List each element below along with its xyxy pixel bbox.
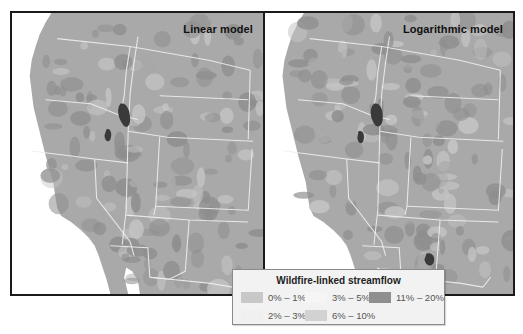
watershed-patch — [196, 71, 217, 79]
watershed-patch — [422, 133, 432, 147]
watershed-patch — [92, 30, 99, 38]
watershed-patch — [87, 99, 108, 115]
watershed-patch — [341, 86, 360, 104]
watershed-patch — [472, 154, 478, 165]
watershed-patch — [329, 185, 336, 198]
watershed-patch — [235, 243, 248, 249]
watershed-patch — [243, 120, 261, 130]
watershed-patch — [366, 59, 376, 80]
watershed-patch — [44, 123, 63, 129]
watershed-patch — [468, 247, 477, 262]
high-streamflow-hotspot — [357, 131, 364, 143]
legend-label: 0% – 1% — [268, 292, 306, 303]
watershed-patch — [220, 108, 234, 124]
watershed-patch — [225, 155, 231, 163]
watershed-patch — [126, 146, 143, 153]
map-linear — [12, 13, 263, 294]
watershed-patch — [309, 170, 327, 180]
watershed-patch — [413, 166, 422, 182]
watershed-patch — [83, 126, 90, 139]
legend-item-6-10: 6% – 10% — [305, 310, 375, 321]
watershed-patch — [127, 244, 149, 256]
watershed-patch — [114, 54, 133, 70]
watershed-patch — [144, 259, 151, 270]
watershed-patch — [309, 200, 330, 213]
watershed-patch — [70, 111, 91, 126]
watershed-patch — [444, 194, 456, 214]
watershed-patch — [222, 126, 233, 133]
watershed-patch — [456, 226, 464, 236]
legend-item-0-1: 0% – 1% — [241, 292, 306, 303]
watershed-patch — [433, 135, 445, 146]
watershed-patch — [367, 226, 383, 232]
watershed-patch — [311, 70, 328, 89]
legend-item-11-20: 11% – 20% — [369, 292, 444, 303]
watershed-patch — [134, 56, 157, 77]
map-logarithmic — [265, 13, 513, 294]
watershed-patch — [111, 212, 119, 230]
legend-swatch — [241, 310, 263, 321]
legend-item-2-3: 2% – 3% — [241, 310, 306, 321]
watershed-patch — [228, 206, 235, 215]
watershed-patch — [238, 165, 249, 175]
watershed-patch — [448, 139, 459, 154]
watershed-patch — [503, 266, 510, 282]
watershed-patch — [149, 219, 170, 237]
watershed-patch — [207, 15, 219, 22]
watershed-patch — [40, 168, 60, 183]
watershed-patch — [376, 179, 399, 196]
watershed-patch — [474, 38, 487, 60]
watershed-patch — [172, 241, 181, 248]
watershed-patch — [311, 92, 327, 106]
watershed-patch — [113, 24, 127, 36]
watershed-patch — [124, 257, 141, 263]
legend-label: 2% – 3% — [268, 310, 306, 321]
legend-swatch — [369, 292, 391, 303]
watershed-patch — [75, 196, 91, 207]
watershed-patch — [196, 131, 205, 145]
legend-item-3-5: 3% – 5% — [305, 292, 370, 303]
watershed-patch — [401, 55, 421, 63]
watershed-patch — [314, 122, 335, 143]
legend-swatch — [305, 292, 327, 303]
watershed-patch — [129, 179, 143, 187]
watershed-patch — [420, 64, 442, 78]
watershed-patch — [370, 13, 382, 32]
legend-label: 3% – 5% — [332, 292, 370, 303]
watershed-patch — [343, 230, 353, 240]
watershed-patch — [486, 183, 506, 199]
map-panel-logarithmic: Logarithmic model — [263, 11, 515, 296]
map-panel-linear: Linear model — [10, 11, 265, 296]
watershed-patch — [432, 233, 441, 241]
watershed-patch — [238, 92, 256, 112]
watershed-patch — [77, 64, 89, 73]
watershed-patch — [217, 195, 233, 204]
watershed-patch — [308, 58, 322, 69]
watershed-patch — [381, 83, 400, 90]
watershed-patch — [154, 31, 171, 47]
watershed-patch — [199, 197, 220, 217]
watershed-patch — [114, 141, 125, 159]
watershed-patch — [97, 24, 114, 32]
watershed-patch — [467, 142, 476, 149]
watershed-patch — [171, 157, 194, 175]
watershed-patch — [101, 175, 116, 192]
watershed-patch — [384, 226, 404, 244]
watershed-patch — [476, 246, 489, 254]
watershed-patch — [69, 137, 80, 158]
watershed-patch — [129, 219, 144, 239]
watershed-patch — [484, 83, 493, 96]
watershed-patch — [479, 261, 491, 278]
panel-title-logarithmic: Logarithmic model — [403, 23, 503, 35]
watershed-patch — [453, 108, 469, 121]
legend-label: 11% – 20% — [396, 292, 444, 303]
legend: Wildfire-linked streamflow 0% – 1% 2% – … — [232, 269, 445, 325]
watershed-patch — [496, 105, 505, 118]
watershed-patch — [49, 193, 69, 214]
legend-swatch — [305, 310, 327, 321]
legend-swatch — [241, 292, 263, 303]
watershed-patch — [332, 110, 344, 122]
watershed-patch — [52, 68, 69, 75]
watershed-patch — [61, 164, 68, 170]
watershed-patch — [133, 79, 142, 92]
